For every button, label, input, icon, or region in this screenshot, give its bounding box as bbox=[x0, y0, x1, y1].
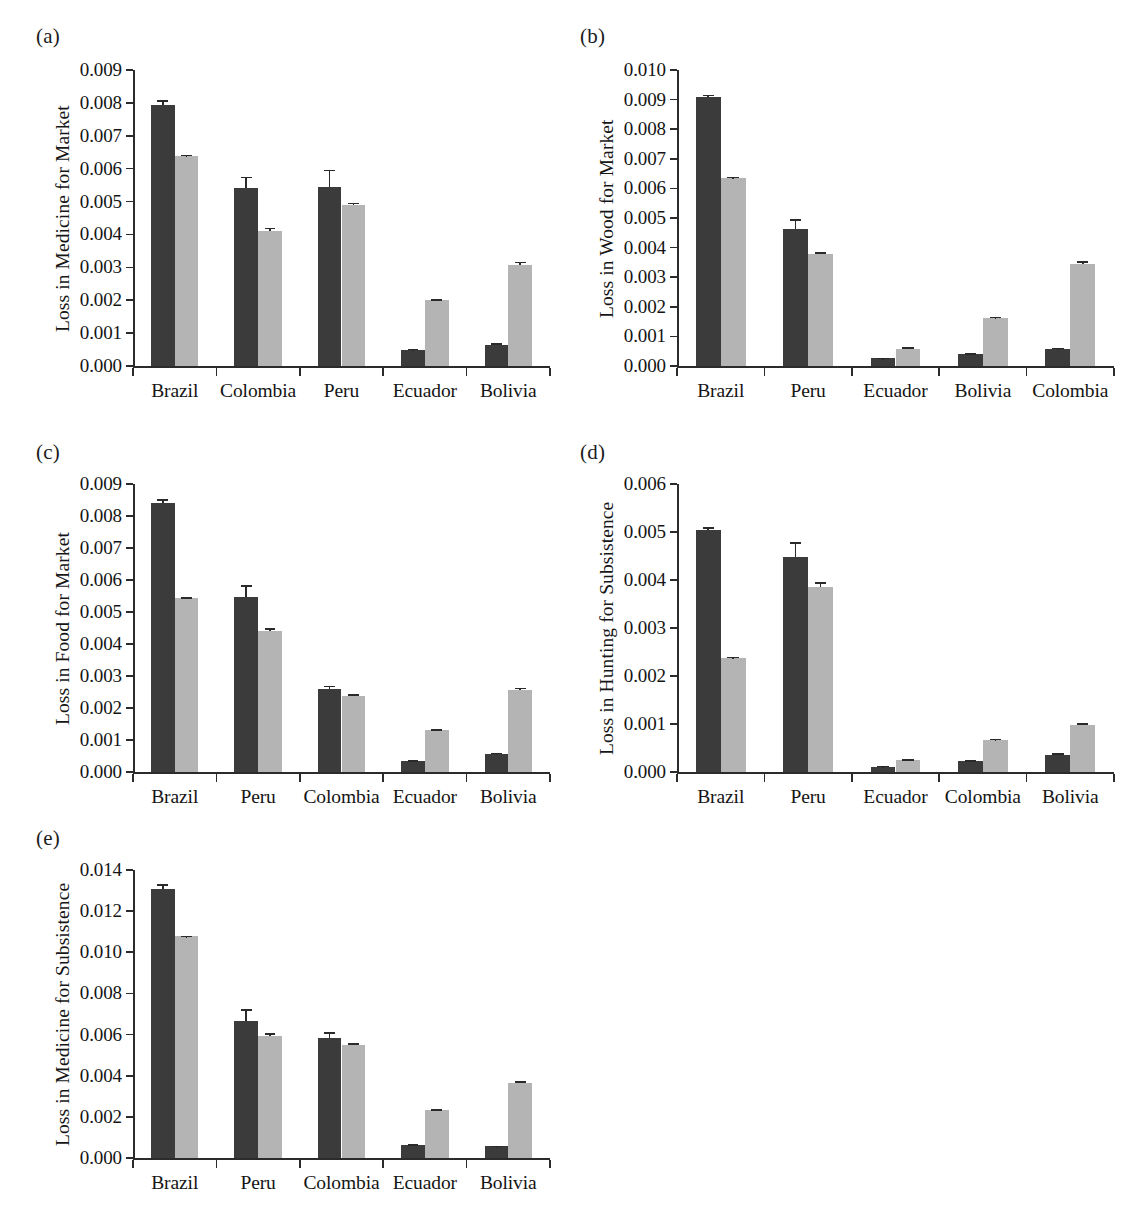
error-bar-cap bbox=[157, 884, 168, 886]
y-axis-tick-label: 0.009 bbox=[80, 473, 122, 495]
bar-colombia-dark bbox=[958, 761, 983, 772]
y-axis-tick bbox=[126, 1157, 133, 1159]
y-axis-tick bbox=[670, 306, 677, 308]
error-bar-cap bbox=[727, 657, 738, 659]
bar-peru-dark bbox=[783, 557, 808, 772]
bar-ecuador-light bbox=[896, 760, 921, 772]
panel-b-plot: 0.0000.0010.0020.0030.0040.0050.0060.007… bbox=[580, 60, 1120, 424]
error-bar-cap bbox=[515, 688, 526, 690]
x-axis-tick bbox=[1113, 774, 1115, 782]
x-axis-tick-label: Colombia bbox=[300, 786, 383, 808]
y-axis-tick-label: 0.006 bbox=[80, 1024, 122, 1046]
error-bar-cap bbox=[431, 729, 442, 731]
bar-bolivia-dark bbox=[958, 354, 983, 366]
y-axis-line bbox=[677, 484, 679, 772]
y-axis-line bbox=[133, 484, 135, 772]
y-axis-tick-label: 0.009 bbox=[80, 59, 122, 81]
y-axis-tick bbox=[670, 158, 677, 160]
x-axis-tick bbox=[764, 368, 766, 376]
x-axis-tick-label: Brazil bbox=[677, 380, 764, 402]
error-bar-cap bbox=[348, 694, 359, 696]
y-axis-tick-label: 0.002 bbox=[80, 697, 122, 719]
x-axis-tick bbox=[851, 368, 853, 376]
y-axis-tick-label: 0.000 bbox=[624, 355, 666, 377]
y-axis-title: Loss in Medicine for Market bbox=[52, 105, 74, 332]
x-axis-tick-label: Brazil bbox=[133, 1172, 216, 1194]
x-axis-tick-label: Ecuador bbox=[383, 1172, 466, 1194]
bar-colombia-light bbox=[1070, 264, 1095, 366]
y-axis-tick bbox=[670, 128, 677, 130]
panel-c: (c) 0.0000.0010.0020.0030.0040.0050.0060… bbox=[36, 440, 556, 830]
panel-a: (a) 0.0000.0010.0020.0030.0040.0050.0060… bbox=[36, 24, 556, 424]
y-axis-title: Loss in Wood for Market bbox=[596, 119, 618, 318]
x-axis-tick bbox=[676, 368, 678, 376]
x-axis-tick bbox=[851, 774, 853, 782]
bar-colombia-dark bbox=[234, 188, 258, 366]
y-axis-title: Loss in Food for Market bbox=[52, 532, 74, 725]
x-axis-tick bbox=[938, 368, 940, 376]
error-bar-cap bbox=[1052, 348, 1063, 350]
x-axis-tick bbox=[299, 368, 301, 376]
error-bar-stem bbox=[329, 170, 331, 187]
bar-brazil-dark bbox=[151, 503, 175, 772]
x-axis-tick bbox=[549, 774, 551, 782]
error-bar-cap bbox=[324, 170, 335, 172]
error-bar-cap bbox=[241, 585, 252, 587]
panel-c-label: (c) bbox=[36, 440, 60, 465]
y-axis-tick-label: 0.006 bbox=[624, 177, 666, 199]
bar-ecuador-light bbox=[896, 349, 921, 366]
y-axis-tick bbox=[126, 168, 133, 170]
y-axis-tick bbox=[126, 869, 133, 871]
bar-colombia-light bbox=[983, 740, 1008, 772]
y-axis-tick bbox=[670, 99, 677, 101]
y-axis-tick-label: 0.004 bbox=[80, 223, 122, 245]
error-bar-stem bbox=[795, 542, 797, 557]
panel-d: (d) 0.0000.0010.0020.0030.0040.0050.006L… bbox=[580, 440, 1120, 830]
y-axis-tick bbox=[670, 627, 677, 629]
x-axis-tick bbox=[382, 1160, 384, 1168]
y-axis-tick bbox=[126, 643, 133, 645]
error-bar-cap bbox=[491, 343, 502, 345]
y-axis-tick bbox=[126, 365, 133, 367]
y-axis-tick-label: 0.008 bbox=[80, 982, 122, 1004]
y-axis-tick bbox=[126, 951, 133, 953]
error-bar-cap bbox=[157, 499, 168, 501]
y-axis-tick bbox=[670, 365, 677, 367]
y-axis-tick bbox=[126, 910, 133, 912]
error-bar-cap bbox=[815, 582, 826, 584]
y-axis-line bbox=[133, 70, 135, 366]
y-axis-tick bbox=[126, 1116, 133, 1118]
x-axis-tick-label: Ecuador bbox=[852, 786, 939, 808]
bar-colombia-dark bbox=[1045, 349, 1070, 366]
error-bar-cap bbox=[181, 597, 192, 599]
x-axis-tick bbox=[299, 1160, 301, 1168]
y-axis-tick-label: 0.004 bbox=[624, 569, 666, 591]
x-axis-tick bbox=[216, 774, 218, 782]
error-bar-cap bbox=[431, 1109, 442, 1111]
error-bar-cap bbox=[703, 95, 714, 97]
x-axis-tick bbox=[676, 774, 678, 782]
x-axis-tick bbox=[132, 1160, 134, 1168]
panel-c-plot: 0.0000.0010.0020.0030.0040.0050.0060.007… bbox=[36, 474, 556, 830]
bar-ecuador-dark bbox=[401, 350, 425, 366]
y-axis-tick-label: 0.004 bbox=[80, 1065, 122, 1087]
y-axis-tick bbox=[126, 201, 133, 203]
panel-a-label: (a) bbox=[36, 24, 60, 49]
error-bar-stem bbox=[245, 585, 247, 597]
y-axis-tick-label: 0.006 bbox=[624, 473, 666, 495]
bar-ecuador-light bbox=[425, 300, 449, 366]
x-axis-tick-label: Bolivia bbox=[939, 380, 1026, 402]
y-axis-tick bbox=[670, 675, 677, 677]
bar-brazil-light bbox=[721, 658, 746, 772]
panel-b-label: (b) bbox=[580, 24, 605, 49]
y-axis-tick-label: 0.010 bbox=[624, 59, 666, 81]
bar-brazil-light bbox=[721, 178, 746, 366]
y-axis-tick-label: 0.007 bbox=[80, 537, 122, 559]
y-axis-tick-label: 0.004 bbox=[624, 237, 666, 259]
error-bar-cap bbox=[990, 317, 1001, 319]
y-axis-tick bbox=[670, 531, 677, 533]
x-axis-tick bbox=[132, 774, 134, 782]
error-bar-stem bbox=[245, 177, 247, 189]
x-axis-tick bbox=[549, 1160, 551, 1168]
error-bar-cap bbox=[324, 686, 335, 688]
